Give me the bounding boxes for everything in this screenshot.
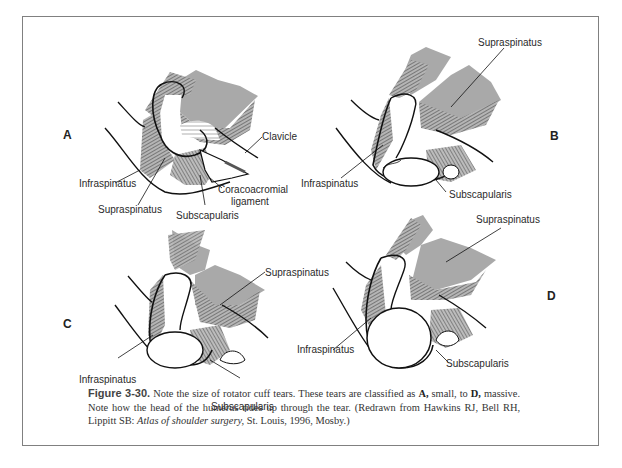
label-infraspinatus-c: Infraspinatus: [79, 375, 136, 385]
panel-letter-a: A: [63, 129, 72, 141]
caption-text-1: Note the size of rotator cuff tears. The…: [153, 388, 415, 399]
caption-bold-d: D,: [471, 388, 481, 399]
label-supraspinatus-d: Supraspinatus: [476, 215, 540, 225]
label-subscapularis-a: Subscapularis: [176, 211, 239, 221]
panel-b: B Supraspinatus Infraspinatus Subscapula…: [311, 0, 622, 230]
label-subscapularis-b: Subscapularis: [449, 190, 512, 200]
label-clavicle: Clavicle: [262, 132, 297, 142]
panel-c: C Supraspinatus Infraspinatus Subscapula…: [0, 230, 311, 390]
caption-bold-a: A,: [418, 388, 428, 399]
figure-caption: Figure 3-30. Note the size of rotator cu…: [88, 387, 520, 428]
shoulder-illustration-c: [0, 230, 311, 390]
label-coracoacromial: Coracoacromial: [218, 185, 288, 195]
panel-letter-c: C: [63, 318, 72, 330]
label-supraspinatus-a: Supraspinatus: [98, 205, 162, 215]
panel-d: D Supraspinatus Infraspinatus Subscapula…: [311, 200, 622, 390]
label-supraspinatus-b: Supraspinatus: [478, 38, 542, 48]
caption-text-4: St. Louis, 1996, Mosby.): [247, 415, 350, 426]
label-infraspinatus-a: Infraspinatus: [79, 179, 136, 189]
figure-number: Figure 3-30.: [88, 387, 150, 399]
label-infraspinatus-b: Infraspinatus: [301, 179, 358, 189]
label-ligament: ligament: [231, 197, 269, 207]
caption-text-2: small, to: [432, 388, 468, 399]
caption-source-title: Atlas of shoulder surgery,: [137, 415, 244, 426]
panel-a: A Clavicle Infraspinatus Coracoacromial …: [0, 0, 311, 230]
label-subscapularis-d: Subscapularis: [446, 359, 509, 369]
panel-letter-b: B: [550, 130, 559, 142]
label-infraspinatus-d: Infraspinatus: [297, 345, 354, 355]
panel-letter-d: D: [547, 290, 556, 302]
